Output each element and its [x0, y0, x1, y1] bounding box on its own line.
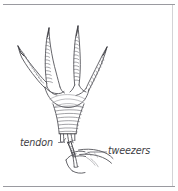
hand-gripping: [66, 149, 113, 173]
toe-inner-right: [74, 26, 81, 85]
foot-pad: [45, 85, 89, 108]
bird-foot-drawing: [18, 26, 107, 144]
leg-shank: [53, 104, 84, 134]
toe-outer-right: [86, 47, 107, 91]
hand-drawn-illustration: tendon tweezers: [0, 0, 178, 191]
figure-container: tendon tweezers: [0, 0, 178, 191]
toe-outer-right-scales: [89, 57, 104, 87]
tweezers-and-hand: [66, 141, 113, 173]
toe-inner-left: [45, 28, 60, 87]
toe-outer-left: [18, 46, 47, 88]
tweezers-leader-line: [85, 152, 107, 154]
label-tweezers: tweezers: [108, 145, 150, 156]
label-tendon: tendon: [20, 137, 53, 148]
